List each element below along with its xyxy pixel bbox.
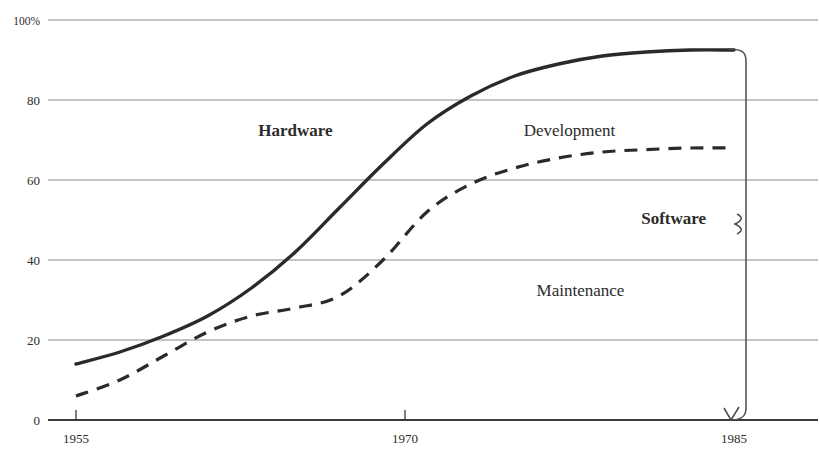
x-axis-tick-label-1955: 1955: [63, 431, 89, 446]
chart-container: 100%806040200 195519701985 Hardware Deve…: [0, 0, 820, 459]
region-label-software: Software: [641, 209, 706, 228]
y-axis-tick-label-60: 60: [27, 173, 40, 188]
y-axis-tick-label-20: 20: [27, 333, 40, 348]
x-axis-tick-label-1970: 1970: [392, 431, 418, 446]
y-axis-tick-label-40: 40: [27, 253, 40, 268]
region-label-hardware: Hardware: [258, 121, 333, 140]
region-label-development: Development: [524, 121, 616, 140]
x-axis-tick-label-1985: 1985: [721, 431, 747, 446]
y-axis-tick-label-0: 0: [34, 413, 41, 428]
region-label-maintenance: Maintenance: [537, 281, 625, 300]
y-axis-tick-label-100: 100%: [13, 15, 40, 27]
y-axis-tick-label-80: 80: [27, 93, 40, 108]
software-cost-distribution-chart: 100%806040200 195519701985 Hardware Deve…: [0, 0, 820, 459]
